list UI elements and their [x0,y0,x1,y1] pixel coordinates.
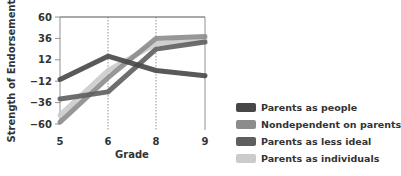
legend-swatch [236,154,256,163]
legend-label: Parents as people [261,102,357,113]
x-tick-label: 6 [105,136,112,147]
legend-item-parents-as-less-ideal: Parents as less ideal [236,133,401,149]
x-tick-label: 9 [202,136,209,147]
data-series [60,37,205,123]
y-tick-label: −36 [30,97,52,108]
y-tick-label: 60 [38,12,52,23]
y-axis-title: Strength of Endorsement [6,0,17,142]
y-tick-label: 36 [38,33,52,44]
legend-item-parents-as-individuals: Parents as individuals [236,150,401,166]
legend-label: Parents as individuals [261,153,379,164]
x-axis-title: Grade [115,149,149,160]
legend-item-parents-as-people: Parents as people [236,99,401,115]
legend-label: Nondependent on parents [261,119,401,130]
legend-swatch [236,120,256,129]
y-tick-label: −12 [30,76,52,87]
y-tick-label: 12 [38,54,52,65]
y-tick-label: −60 [30,119,52,130]
line-chart: 603612−12−36−60 5689 Grade Strength of E… [0,0,230,176]
x-tick-label: 8 [153,136,160,147]
legend-swatch [236,103,256,112]
y-axis-ticks: 603612−12−36−60 [30,12,60,130]
legend: Parents as people Nondependent on parent… [236,99,401,167]
series-line-nondependent-on-parents [60,37,205,123]
legend-label: Parents as less ideal [261,136,371,147]
x-tick-label: 5 [57,136,64,147]
legend-swatch [236,137,256,146]
legend-item-nondependent-on-parents: Nondependent on parents [236,116,401,132]
x-axis-ticks: 5689 [57,136,209,147]
